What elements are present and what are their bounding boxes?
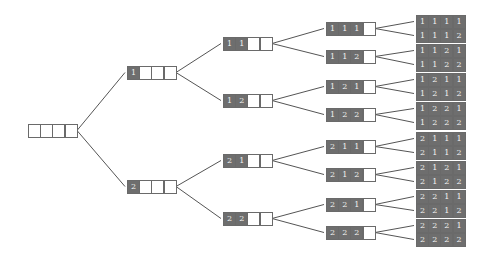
filled-cell: 1 bbox=[326, 80, 339, 94]
filled-cell: 1 bbox=[350, 80, 363, 94]
tree-edge bbox=[375, 233, 414, 240]
tree-edge bbox=[272, 147, 324, 161]
filled-cell: 1 bbox=[440, 29, 453, 43]
filled-cell: 2 bbox=[428, 102, 441, 116]
empty-cell bbox=[363, 168, 376, 182]
filled-cell: 1 bbox=[338, 50, 351, 64]
filled-cell: 1 bbox=[440, 132, 453, 146]
tree-node-n1221: 1221 bbox=[416, 102, 466, 115]
tree-node-n22: 22 bbox=[223, 212, 273, 225]
empty-cell bbox=[164, 180, 177, 194]
filled-cell: 1 bbox=[223, 94, 236, 108]
filled-cell: 1 bbox=[235, 154, 248, 168]
filled-cell: 1 bbox=[127, 66, 140, 80]
filled-cell: 2 bbox=[440, 219, 453, 233]
filled-cell: 2 bbox=[338, 198, 351, 212]
filled-cell: 2 bbox=[416, 204, 429, 218]
filled-cell: 1 bbox=[440, 146, 453, 160]
tree-node-n2222: 2222 bbox=[416, 233, 466, 246]
tree-edge bbox=[176, 161, 221, 187]
filled-cell: 1 bbox=[453, 15, 466, 29]
tree-node-n221: 221 bbox=[326, 198, 376, 211]
tree-edge bbox=[375, 57, 414, 65]
filled-cell: 2 bbox=[440, 58, 453, 72]
filled-cell: 2 bbox=[350, 226, 363, 240]
filled-cell: 1 bbox=[326, 22, 339, 36]
filled-cell: 1 bbox=[453, 102, 466, 116]
tree-edge bbox=[176, 44, 221, 73]
filled-cell: 1 bbox=[416, 116, 429, 130]
tree-node-n2212: 2212 bbox=[416, 204, 466, 217]
filled-cell: 1 bbox=[440, 15, 453, 29]
filled-cell: 2 bbox=[338, 80, 351, 94]
empty-cell bbox=[151, 66, 164, 80]
filled-cell: 2 bbox=[428, 233, 441, 247]
filled-cell: 1 bbox=[453, 190, 466, 204]
filled-cell: 2 bbox=[440, 116, 453, 130]
filled-cell: 2 bbox=[326, 168, 339, 182]
filled-cell: 2 bbox=[416, 233, 429, 247]
tree-node-n111: 111 bbox=[326, 22, 376, 35]
tree-diagram: 1211122122111112121122211212221222111111… bbox=[0, 0, 488, 261]
empty-cell bbox=[247, 154, 260, 168]
tree-edge bbox=[77, 73, 125, 131]
tree-edge bbox=[375, 175, 414, 182]
filled-cell: 2 bbox=[350, 108, 363, 122]
filled-cell: 2 bbox=[223, 154, 236, 168]
filled-cell: 1 bbox=[428, 58, 441, 72]
empty-cell bbox=[151, 180, 164, 194]
empty-cell bbox=[65, 124, 78, 138]
filled-cell: 2 bbox=[416, 190, 429, 204]
tree-edge bbox=[77, 131, 125, 187]
filled-cell: 2 bbox=[453, 146, 466, 160]
tree-edge bbox=[272, 87, 324, 101]
tree-node-n1: 1 bbox=[127, 66, 177, 79]
tree-edge bbox=[375, 51, 414, 57]
tree-node-n222: 222 bbox=[326, 226, 376, 239]
tree-node-n2111: 2111 bbox=[416, 132, 466, 145]
filled-cell: 2 bbox=[453, 29, 466, 43]
tree-edge bbox=[375, 197, 414, 205]
filled-cell: 1 bbox=[453, 73, 466, 87]
filled-cell: 1 bbox=[453, 132, 466, 146]
filled-cell: 2 bbox=[223, 212, 236, 226]
filled-cell: 1 bbox=[428, 44, 441, 58]
filled-cell: 2 bbox=[428, 87, 441, 101]
tree-edge bbox=[375, 226, 414, 233]
tree-edge bbox=[176, 73, 221, 101]
filled-cell: 1 bbox=[416, 73, 429, 87]
tree-node-n122: 122 bbox=[326, 108, 376, 121]
tree-node-n1211: 1211 bbox=[416, 73, 466, 86]
tree-edge bbox=[176, 187, 221, 219]
tree-edge bbox=[272, 101, 324, 115]
filled-cell: 1 bbox=[416, 29, 429, 43]
tree-node-n11: 11 bbox=[223, 37, 273, 50]
filled-cell: 2 bbox=[453, 204, 466, 218]
tree-node-n2: 2 bbox=[127, 180, 177, 193]
filled-cell: 2 bbox=[453, 116, 466, 130]
empty-cell bbox=[363, 198, 376, 212]
filled-cell: 1 bbox=[350, 140, 363, 154]
filled-cell: 2 bbox=[453, 175, 466, 189]
empty-cell bbox=[260, 154, 273, 168]
empty-cell bbox=[363, 80, 376, 94]
filled-cell: 2 bbox=[127, 180, 140, 194]
filled-cell: 2 bbox=[338, 108, 351, 122]
tree-node-n1212: 1212 bbox=[416, 87, 466, 100]
empty-cell bbox=[363, 22, 376, 36]
filled-cell: 2 bbox=[453, 233, 466, 247]
filled-cell: 1 bbox=[428, 146, 441, 160]
filled-cell: 2 bbox=[350, 168, 363, 182]
empty-cell bbox=[247, 212, 260, 226]
tree-node-n1111: 1111 bbox=[416, 15, 466, 28]
filled-cell: 1 bbox=[326, 50, 339, 64]
tree-node-n2211: 2211 bbox=[416, 190, 466, 203]
empty-cell bbox=[247, 37, 260, 51]
tree-edge bbox=[375, 139, 414, 147]
filled-cell: 2 bbox=[338, 226, 351, 240]
filled-cell: 1 bbox=[428, 132, 441, 146]
filled-cell: 1 bbox=[326, 108, 339, 122]
empty-cell bbox=[139, 66, 152, 80]
filled-cell: 2 bbox=[416, 219, 429, 233]
tree-edge bbox=[375, 115, 414, 123]
